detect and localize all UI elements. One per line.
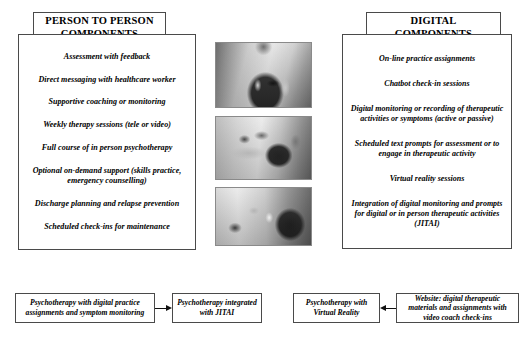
photo-person-at-desk-with-tablet [215, 116, 312, 180]
figure-canvas: PERSON TO PERSON COMPONENTS DIGITAL COMP… [0, 0, 527, 340]
panel-item: Scheduled check-ins for maintenance [25, 222, 189, 232]
panel-item: Assessment with feedback [25, 52, 189, 62]
panel-item: Discharge planning and relapse preventio… [25, 199, 189, 209]
panel-item: Optional on-demand support (skills pract… [25, 166, 189, 186]
panel-item: Supportive coaching or monitoring [25, 97, 189, 107]
flow-box-psychotherapy-with-virtual-reality: Psychotherapy with Virtual Reality [293, 293, 380, 323]
panel-item: Integration of digital monitoring and pr… [349, 199, 505, 230]
arrow-flow4-to-flow3-icon [380, 304, 397, 312]
panel-item: Digital monitoring or recording of thera… [349, 104, 505, 124]
panel-item: Full course of in person psychotherapy [25, 143, 189, 153]
panel-item: Weekly therapy sessions (tele or video) [25, 120, 189, 130]
flow-box-psychotherapy-with-digital-practice: Psychotherapy with digital practice assi… [15, 293, 155, 323]
panel-item: Chatbot check-in sessions [349, 79, 505, 89]
person-to-person-header-line1: PERSON TO PERSON [45, 14, 153, 27]
photo-person-using-smartphone [215, 42, 312, 108]
digital-components-panel: On-line practice assignments Chatbot che… [342, 34, 512, 249]
panel-item: Scheduled text prompts for assessment or… [349, 139, 505, 159]
photo-column [215, 42, 312, 246]
digital-components-header-line1: DIGITAL [410, 14, 456, 27]
arrow-head [380, 305, 386, 311]
panel-item: On-line practice assignments [349, 54, 505, 64]
flow-box-psychotherapy-integrated-with-jitai: Psychotherapy integrated with JITAI [172, 293, 262, 323]
panel-item: Virtual reality sessions [349, 174, 505, 184]
person-to-person-components-panel: Assessment with feedback Direct messagin… [18, 34, 196, 250]
flow-box-website-digital-therapeutic-materials: Website: digital therapeutic materials a… [396, 293, 519, 323]
arrow-flow1-to-flow2-icon [155, 304, 172, 312]
panel-item: Direct messaging with healthcare worker [25, 75, 189, 85]
photo-person-at-laptop [215, 187, 312, 246]
